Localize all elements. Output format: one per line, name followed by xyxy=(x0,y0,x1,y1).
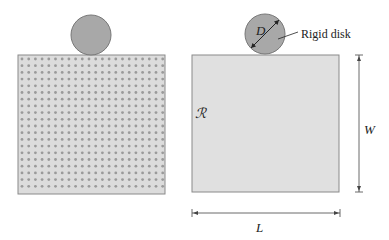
right-panel: D Rigid disk ℛ W L xyxy=(192,14,376,235)
diameter-label: D xyxy=(255,23,266,38)
rigid-disk-left xyxy=(71,15,111,55)
homogenized-domain xyxy=(192,55,339,192)
region-label: ℛ xyxy=(195,106,207,121)
length-label: L xyxy=(255,220,263,235)
width-label: W xyxy=(364,122,376,137)
width-arrowhead-bottom xyxy=(357,186,361,191)
left-panel xyxy=(18,15,165,194)
rigid-disk-label: Rigid disk xyxy=(301,27,351,41)
diagram-canvas: D Rigid disk ℛ W L xyxy=(0,0,389,240)
width-arrowhead-top xyxy=(357,56,361,61)
length-arrowhead-left xyxy=(193,211,198,215)
length-arrowhead-right xyxy=(334,211,339,215)
